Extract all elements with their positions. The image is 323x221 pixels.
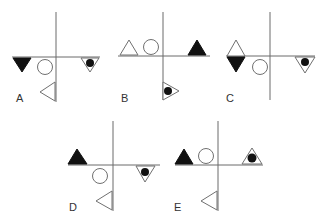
option-label: D [69,201,77,213]
left-triangle-icon [201,191,217,210]
dot-icon [301,58,309,66]
options-figure: A B C D [0,0,323,221]
option-c[interactable]: C [226,12,315,104]
circle-icon [93,169,108,184]
circle-icon [199,149,214,164]
option-e[interactable]: E [174,121,263,213]
left-triangle-icon [96,191,112,210]
circle-icon [144,40,159,55]
dot-icon [248,154,257,163]
dot-icon [86,59,94,67]
solid-down-triangle-icon [13,58,31,72]
option-label: E [174,201,181,213]
diamond-top-outline-icon [227,40,245,56]
option-b[interactable]: B [118,12,210,104]
up-triangle-icon [120,40,138,55]
diamond-bottom-solid-icon [227,57,245,72]
option-label: B [121,92,128,104]
option-d[interactable]: D [68,121,160,213]
left-triangle-icon [40,82,55,101]
solid-up-triangle-icon [188,40,206,55]
solid-up-triangle-icon [175,149,193,164]
circle-icon [253,60,268,75]
dot-icon [164,87,172,95]
option-a[interactable]: A [12,12,100,104]
dot-icon [141,168,149,176]
circle-icon [38,60,53,75]
solid-up-triangle-icon [68,149,87,164]
option-label: C [226,92,234,104]
option-label: A [16,92,24,104]
